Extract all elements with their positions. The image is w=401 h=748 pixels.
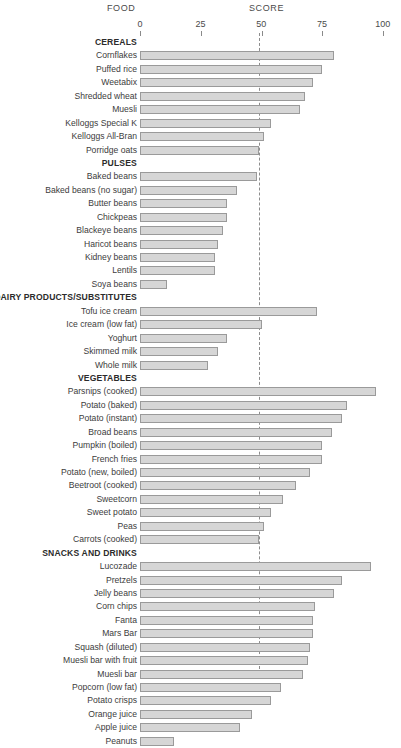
bar: [140, 146, 259, 155]
bar: [140, 199, 227, 208]
bar-row: Kidney beans: [0, 251, 401, 264]
bar-label: Mars Bar: [0, 627, 137, 640]
bar-row: Corn chips: [0, 600, 401, 613]
bar: [140, 710, 252, 719]
bar: [140, 589, 334, 598]
bar-row: Baked beans (no sugar): [0, 184, 401, 197]
bar: [140, 334, 227, 343]
bar-row: Lucozade: [0, 560, 401, 573]
bar-label: Orange juice: [0, 708, 137, 721]
bar: [140, 629, 313, 638]
bar-label: Whole milk: [0, 359, 137, 372]
bar: [140, 495, 283, 504]
bar: [140, 468, 310, 477]
bar-row: Sweetcorn: [0, 493, 401, 506]
group-label: PULSES: [0, 157, 137, 170]
bar-label: Lentils: [0, 264, 137, 277]
bar-row: Pretzels: [0, 574, 401, 587]
bar-label: Parsnips (cooked): [0, 385, 137, 398]
bar-label: Tofu ice cream: [0, 305, 137, 318]
bar: [140, 320, 262, 329]
bar-label: Potato (baked): [0, 399, 137, 412]
bar: [140, 387, 376, 396]
bar-label: Chickpeas: [0, 211, 137, 224]
bar: [140, 361, 208, 370]
bar: [140, 401, 347, 410]
bar-label: Muesli: [0, 103, 137, 116]
bar-label: Potato (instant): [0, 412, 137, 425]
bar: [140, 307, 317, 316]
bar-label: Squash (diluted): [0, 641, 137, 654]
bar-row: Yoghurt: [0, 332, 401, 345]
bar-label: Muesli bar: [0, 668, 137, 681]
bar-row: Muesli bar with fruit: [0, 654, 401, 667]
bar: [140, 481, 296, 490]
x-axis-tick-label-0: 0: [137, 19, 142, 29]
bar: [140, 51, 334, 60]
bar-row: Mars Bar: [0, 627, 401, 640]
bar: [140, 65, 322, 74]
bar-label: Kelloggs All-Bran: [0, 130, 137, 143]
bar-row: Cornflakes: [0, 49, 401, 62]
bar-row: Peas: [0, 520, 401, 533]
bar-label: Shredded wheat: [0, 90, 137, 103]
bar: [140, 723, 240, 732]
bar: [140, 92, 305, 101]
bar: [140, 455, 322, 464]
bar-rows-container: CEREALSCornflakesPuffed riceWeetabixShre…: [0, 36, 401, 748]
bar-row: Apple juice: [0, 721, 401, 734]
bar-row: Broad beans: [0, 426, 401, 439]
bar-row: Whole milk: [0, 359, 401, 372]
bar-label: Peanuts: [0, 735, 137, 748]
bar-label: Potato crisps: [0, 694, 137, 707]
bar-label: Fanta: [0, 614, 137, 627]
bar-row: Porridge oats: [0, 144, 401, 157]
group-label: DAIRY PRODUCTS/SUBSTITUTES: [0, 291, 137, 304]
bar: [140, 696, 271, 705]
bar-label: Soya beans: [0, 278, 137, 291]
bar-label: Cornflakes: [0, 49, 137, 62]
group-header-row: DAIRY PRODUCTS/SUBSTITUTES: [0, 291, 401, 304]
bar: [140, 186, 237, 195]
bar-row: Jelly beans: [0, 587, 401, 600]
bar-label: Popcorn (low fat): [0, 681, 137, 694]
bar-label: Kidney beans: [0, 251, 137, 264]
bar-label: Weetabix: [0, 76, 137, 89]
bar-row: Popcorn (low fat): [0, 681, 401, 694]
x-axis-tick-label-100: 100: [375, 19, 390, 29]
group-header-row: VEGETABLES: [0, 372, 401, 385]
bar-row: Muesli bar: [0, 668, 401, 681]
bar-row: Potato (instant): [0, 412, 401, 425]
bar: [140, 172, 257, 181]
bar: [140, 105, 300, 114]
bar-label: Apple juice: [0, 721, 137, 734]
bar: [140, 656, 308, 665]
bar-row: Lentils: [0, 264, 401, 277]
bar-label: Carrots (cooked): [0, 533, 137, 546]
bar-row: Carrots (cooked): [0, 533, 401, 546]
bar-label: Skimmed milk: [0, 345, 137, 358]
bar: [140, 119, 271, 128]
bar-row: Skimmed milk: [0, 345, 401, 358]
bar-row: Shredded wheat: [0, 90, 401, 103]
bar-row: Baked beans: [0, 170, 401, 183]
bar-label: Pumpkin (boiled): [0, 439, 137, 452]
bar-row: Orange juice: [0, 708, 401, 721]
bar-row: Pumpkin (boiled): [0, 439, 401, 452]
bar: [140, 441, 322, 450]
bar: [140, 240, 218, 249]
bar-label: Blackeye beans: [0, 224, 137, 237]
bar: [140, 428, 332, 437]
bar: [140, 266, 215, 275]
bar-row: Weetabix: [0, 76, 401, 89]
bar: [140, 576, 342, 585]
bar: [140, 414, 342, 423]
bar: [140, 78, 313, 87]
bar-label: Potato (new, boiled): [0, 466, 137, 479]
x-axis-tick-label-75: 75: [317, 19, 327, 29]
bar-label: Yoghurt: [0, 332, 137, 345]
column-header-score: SCORE: [249, 3, 284, 13]
bar: [140, 670, 303, 679]
bar-row: Potato crisps: [0, 694, 401, 707]
bar-label: Haricot beans: [0, 238, 137, 251]
